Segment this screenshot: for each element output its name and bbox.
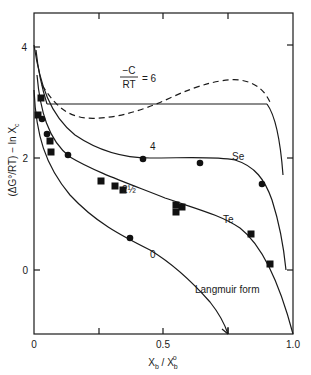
annotation-c-rt-6: −C RT = 6	[120, 65, 157, 90]
svg-text:= 6: = 6	[142, 73, 157, 84]
y-tick-label-4: 4	[21, 42, 27, 53]
annotation-0: 0	[150, 249, 156, 260]
x-axis-title: Xb / Xbo	[148, 354, 178, 370]
svg-text:−C: −C	[122, 65, 135, 76]
chart-svg: 4 2 0 0 0.5 1.0 Xb / Xbo (ΔG°/RT) − ln X…	[0, 0, 311, 375]
annotation-se: Se	[232, 151, 245, 162]
x-tick-label-1-0: 1.0	[286, 339, 300, 350]
annotation-te: Te	[223, 214, 234, 225]
y-ticks-right	[287, 45, 293, 270]
curve-c6-dashed	[42, 80, 270, 119]
x-tick-label-0-5: 0.5	[156, 339, 170, 350]
y-tick-label-0: 0	[22, 265, 28, 276]
curve-0-langmuir	[34, 90, 228, 334]
annotation-4: 4	[150, 141, 156, 152]
svg-text:RT: RT	[122, 79, 135, 90]
x-ticks-top	[99, 13, 228, 19]
annotation-2-5: 2½	[122, 184, 137, 195]
curve-c6-drop	[267, 104, 283, 175]
curve-2-5-te	[37, 75, 293, 334]
x-tick-label-0: 0	[31, 339, 37, 350]
x-ticks-bottom	[99, 328, 228, 334]
te-square-markers	[35, 95, 274, 268]
annotation-langmuir-form: Langmuir form	[195, 284, 259, 295]
y-axis-title: (ΔG°/RT) − ln Xc	[7, 123, 20, 197]
y-tick-label-2: 2	[22, 153, 28, 164]
